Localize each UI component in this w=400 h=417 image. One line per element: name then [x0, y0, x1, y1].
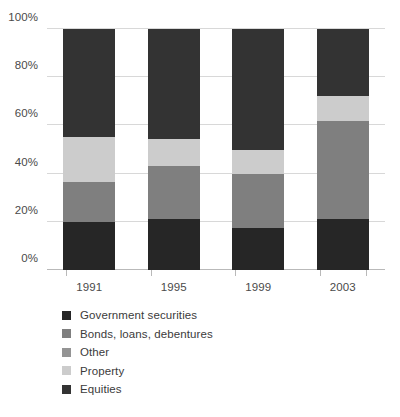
bar-segment — [232, 150, 284, 174]
legend-swatch-icon — [62, 366, 71, 375]
bar-stack — [148, 29, 200, 270]
x-axis-tick-label: 1995 — [148, 281, 200, 293]
x-axis-tickmark — [366, 270, 367, 276]
x-axis-tickmark — [66, 270, 67, 276]
bar-segment — [148, 139, 200, 167]
legend-swatch-icon — [62, 329, 71, 338]
bar-segment — [232, 228, 284, 270]
x-axis-tickmark — [235, 270, 236, 276]
legend-swatch-icon — [62, 385, 71, 394]
bar-segment — [148, 166, 200, 219]
plot-area: 0%20%40%60%80%100% 1991199519992003 — [47, 29, 385, 270]
legend-item[interactable]: Property — [62, 362, 213, 381]
y-axis-tick-label: 40% — [15, 156, 38, 168]
x-axis-tick-label: 1999 — [232, 281, 284, 293]
x-axis-tick-label: 2003 — [317, 281, 369, 293]
legend-item-label: Equities — [80, 383, 122, 395]
legend-item[interactable]: Equities — [62, 380, 213, 399]
x-axis-tickmark — [151, 270, 152, 276]
legend-item-label: Bonds, loans, debentures — [80, 328, 213, 340]
chart-legend: Government securitiesBonds, loans, deben… — [62, 306, 213, 399]
stacked-bar-chart: 0%20%40%60%80%100% 1991199519992003 Gove… — [0, 0, 400, 417]
legend-item-label: Government securities — [80, 309, 197, 321]
y-axis-tick-label: 20% — [15, 204, 38, 216]
bar-segment — [317, 219, 369, 270]
bar-segment — [232, 174, 284, 228]
bar-segment — [63, 182, 115, 222]
y-axis-tick-label: 80% — [15, 59, 38, 71]
legend-swatch-icon — [62, 311, 71, 320]
y-axis-tick-label: 0% — [21, 252, 38, 264]
y-axis-tick-label: 100% — [8, 11, 38, 23]
y-axis-tick-label: 60% — [15, 107, 38, 119]
legend-item[interactable]: Other — [62, 343, 213, 362]
legend-swatch-icon — [62, 348, 71, 357]
legend-item-label: Other — [80, 346, 109, 358]
bar-segment — [63, 29, 115, 137]
bar-segment — [317, 96, 369, 120]
legend-item[interactable]: Bonds, loans, debentures — [62, 325, 213, 344]
bar-segment — [148, 29, 200, 139]
legend-item[interactable]: Government securities — [62, 306, 213, 325]
bar-segment — [232, 29, 284, 150]
bar-stack — [63, 29, 115, 270]
bar-segment — [148, 219, 200, 270]
legend-item-label: Property — [80, 365, 124, 377]
x-axis-tick-label: 1991 — [63, 281, 115, 293]
bar-segment — [63, 137, 115, 182]
bar-stack — [232, 29, 284, 270]
x-axis-tickmark — [320, 270, 321, 276]
bar-segment — [63, 222, 115, 270]
bar-stack — [317, 29, 369, 270]
bar-segment — [317, 29, 369, 96]
bar-segment — [317, 121, 369, 220]
